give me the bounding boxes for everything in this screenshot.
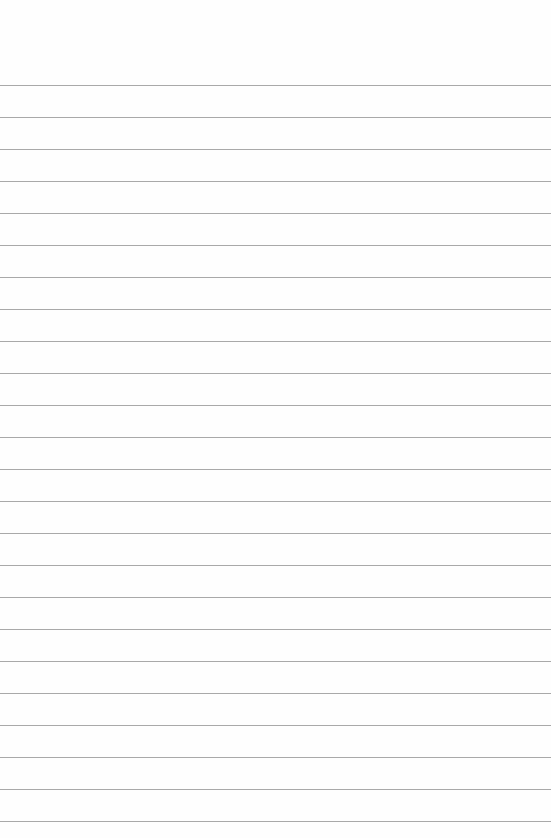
ruled-line	[0, 85, 551, 86]
ruled-line	[0, 277, 551, 278]
ruled-line	[0, 821, 551, 822]
ruled-line	[0, 245, 551, 246]
ruled-line	[0, 789, 551, 790]
ruled-line	[0, 405, 551, 406]
ruled-line	[0, 117, 551, 118]
ruled-line	[0, 533, 551, 534]
ruled-line	[0, 565, 551, 566]
ruled-line	[0, 149, 551, 150]
ruled-line	[0, 309, 551, 310]
ruled-line	[0, 597, 551, 598]
ruled-line	[0, 693, 551, 694]
ruled-line	[0, 341, 551, 342]
ruled-line	[0, 501, 551, 502]
ruled-line	[0, 469, 551, 470]
ruled-line	[0, 373, 551, 374]
ruled-line	[0, 213, 551, 214]
ruled-line	[0, 661, 551, 662]
lined-paper	[0, 0, 551, 838]
ruled-line	[0, 629, 551, 630]
ruled-line	[0, 757, 551, 758]
ruled-line	[0, 437, 551, 438]
ruled-line	[0, 725, 551, 726]
ruled-line	[0, 181, 551, 182]
